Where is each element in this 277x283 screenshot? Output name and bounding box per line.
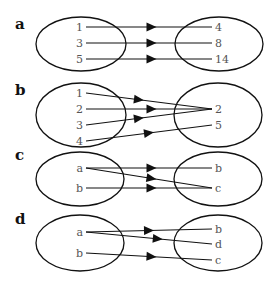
domain-set-ellipse	[36, 152, 124, 206]
domain-set-ellipse	[36, 215, 124, 271]
mapping-diagrams: a1354814b123425cabbcdabbdc	[0, 0, 277, 283]
codomain-element: 4	[215, 21, 222, 34]
arrow-icon	[146, 173, 157, 183]
codomain-element: c	[215, 182, 221, 195]
domain-element: 1	[76, 87, 83, 100]
domain-element: 4	[76, 135, 83, 148]
arrow-icon	[133, 113, 144, 123]
codomain-element: 2	[215, 103, 222, 116]
arrow-icon	[147, 55, 157, 64]
domain-element: 1	[76, 21, 83, 34]
panel-label: d	[15, 210, 26, 228]
arrow-icon	[147, 105, 157, 114]
codomain-element: c	[215, 254, 221, 267]
codomain-element: 5	[215, 119, 222, 132]
panel-label: c	[15, 146, 24, 164]
mapping-panel-d: dabbdc	[15, 210, 262, 271]
domain-element: 3	[76, 37, 83, 50]
panel-label: b	[15, 81, 26, 99]
codomain-element: 8	[215, 37, 222, 50]
mapping-panel-c: cabbc	[15, 146, 262, 206]
arrow-icon	[152, 234, 163, 244]
codomain-element: 14	[215, 53, 229, 66]
mapping-panel-b: b123425	[15, 81, 262, 148]
domain-element: b	[76, 247, 83, 260]
codomain-element: b	[215, 162, 222, 175]
mapping-panel-a: a1354814	[15, 15, 263, 71]
arrow-icon	[147, 184, 157, 193]
arrow-icon	[143, 128, 154, 138]
arrow-icon	[146, 252, 156, 262]
arrow-icon	[147, 23, 157, 32]
domain-element: 2	[76, 103, 83, 116]
codomain-element: b	[215, 223, 222, 236]
codomain-element: d	[215, 238, 222, 251]
domain-element: a	[76, 162, 83, 175]
arrow-icon	[147, 39, 157, 48]
domain-element: 5	[76, 53, 83, 66]
mapping-line	[86, 232, 212, 244]
arrow-icon	[144, 226, 154, 235]
panel-label: a	[15, 15, 25, 33]
domain-element: b	[76, 182, 83, 195]
domain-element: 3	[76, 119, 83, 132]
codomain-set-ellipse	[174, 152, 262, 206]
domain-element: a	[76, 226, 83, 239]
arrow-icon	[147, 164, 157, 173]
arrow-icon	[133, 95, 144, 105]
